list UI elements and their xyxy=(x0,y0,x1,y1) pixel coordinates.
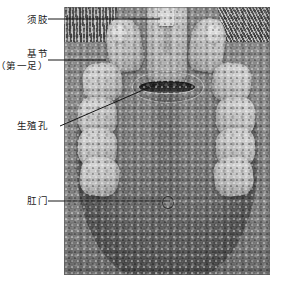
plate-vignette xyxy=(64,7,270,275)
label-anus-text: 肛门 xyxy=(27,195,48,206)
label-coxa-line-2: （第一足） xyxy=(0,60,48,72)
label-genital-pore-text: 生殖孔 xyxy=(17,120,48,131)
label-anus: 肛门 xyxy=(27,195,48,207)
label-palp-text: 须肢 xyxy=(27,14,48,25)
label-genital-pore: 生殖孔 xyxy=(17,120,48,132)
figure-sem-tick-ventral: 须肢 基节 （第一足） 生殖孔 肛门 xyxy=(0,0,281,289)
label-palp: 须肢 xyxy=(27,14,48,26)
label-coxa-first-leg: 基节 （第一足） xyxy=(0,48,48,72)
label-coxa-line-1: 基节 xyxy=(0,48,48,60)
figure-caption xyxy=(0,283,281,289)
micrograph-image xyxy=(64,7,270,275)
